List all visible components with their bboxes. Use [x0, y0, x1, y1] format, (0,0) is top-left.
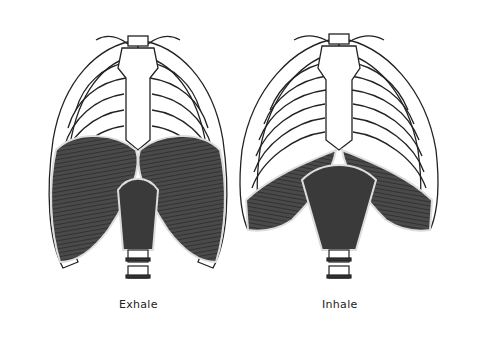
exhale-ribcage-illustration	[38, 0, 238, 300]
exhale-label: Exhale	[119, 298, 158, 311]
spine	[327, 250, 351, 278]
diaphragm	[51, 136, 225, 262]
diaphragm	[246, 150, 432, 250]
spine	[126, 250, 150, 278]
inhale-label: Inhale	[322, 298, 358, 311]
inhale-ribcage-illustration	[232, 0, 447, 300]
